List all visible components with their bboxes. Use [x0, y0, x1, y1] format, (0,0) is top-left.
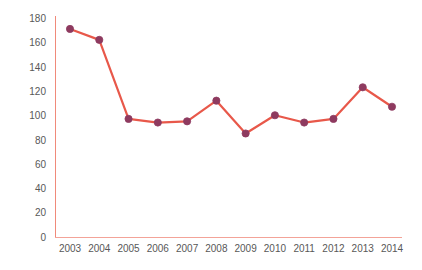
x-tick-label: 2006	[147, 243, 169, 254]
data-point	[154, 119, 161, 126]
data-point	[242, 130, 249, 137]
x-tick-label: 2010	[264, 243, 286, 254]
x-tick-label: 2014	[381, 243, 403, 254]
series-markers-catch	[66, 25, 395, 137]
x-axis-tick-labels: 2003200420052006200720082009201020112012…	[0, 243, 422, 263]
x-tick-label: 2005	[117, 243, 139, 254]
x-tick-label: 2007	[176, 243, 198, 254]
x-tick-label: 2012	[322, 243, 344, 254]
x-tick-label: 2013	[352, 243, 374, 254]
data-point	[359, 84, 366, 91]
data-point	[330, 115, 337, 122]
data-point	[183, 118, 190, 125]
plot-area	[0, 0, 422, 270]
data-point	[96, 36, 103, 43]
data-point	[388, 103, 395, 110]
x-tick-label: 2003	[59, 243, 81, 254]
data-point	[213, 97, 220, 104]
x-tick-label: 2008	[205, 243, 227, 254]
data-point	[66, 25, 73, 32]
data-point	[271, 112, 278, 119]
line-chart: catch (t) 020406080100120140160180 20032…	[0, 0, 422, 270]
data-point	[301, 119, 308, 126]
x-tick-label: 2009	[235, 243, 257, 254]
x-tick-label: 2004	[88, 243, 110, 254]
data-point	[125, 115, 132, 122]
series-line-catch	[70, 29, 392, 134]
x-tick-label: 2011	[293, 243, 315, 254]
